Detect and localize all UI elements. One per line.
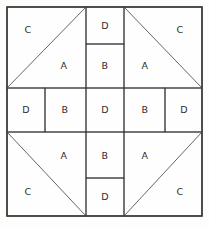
label-bottom-right-a: A	[142, 150, 149, 161]
label-center-upper-b: B	[102, 60, 109, 71]
label-middle-left-d: D	[22, 104, 30, 115]
label-bottom-right-c: C	[177, 186, 184, 197]
label-center-middle-d: D	[101, 104, 109, 115]
label-bottom-left-a: A	[61, 150, 68, 161]
label-top-right-a: A	[142, 60, 149, 71]
label-top-right-c: C	[177, 24, 184, 35]
label-top-left-a: A	[61, 60, 68, 71]
label-middle-right-b: B	[142, 104, 149, 115]
label-center-top-d: D	[101, 20, 109, 31]
label-middle-left-b: B	[62, 104, 69, 115]
block-diagram-svg: C A C A A C A C D B D B D D B B D	[0, 0, 209, 227]
geometric-block-figure: C A C A A C A C D B D B D D B B D	[0, 0, 209, 227]
label-center-bottom-d: D	[101, 191, 109, 202]
label-bottom-left-c: C	[25, 186, 32, 197]
label-top-left-c: C	[25, 24, 32, 35]
label-center-lower-b: B	[102, 150, 109, 161]
label-middle-right-d: D	[180, 104, 188, 115]
